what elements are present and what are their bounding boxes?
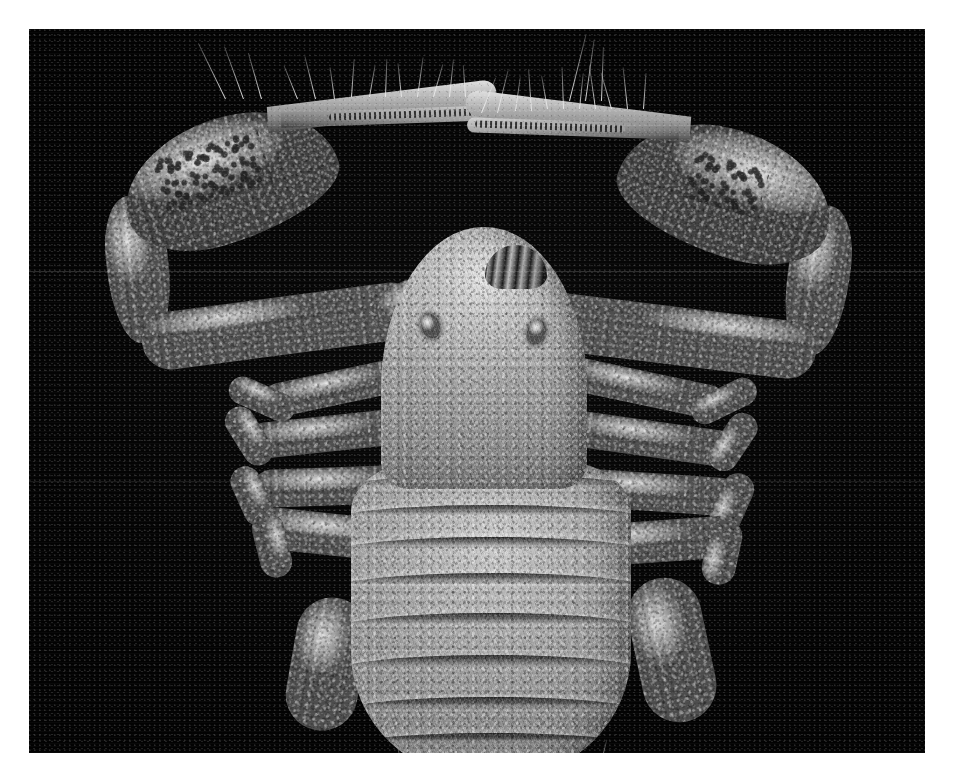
seta xyxy=(330,67,336,99)
leg-right-posterior xyxy=(621,571,724,729)
seta xyxy=(601,47,604,101)
micrograph-plate xyxy=(29,29,925,753)
tergite-5 xyxy=(351,613,631,630)
tergite-2 xyxy=(351,505,631,520)
seta xyxy=(569,35,587,101)
tergite-7 xyxy=(351,697,631,714)
opisthosoma xyxy=(351,461,631,753)
carapace xyxy=(381,227,587,489)
seta xyxy=(643,73,647,109)
seta xyxy=(198,43,226,99)
page-root xyxy=(0,0,955,776)
eye-right xyxy=(524,317,549,347)
seta xyxy=(369,65,376,97)
seta xyxy=(248,53,263,100)
eye-left xyxy=(417,311,443,342)
seta xyxy=(224,46,244,99)
tergite-4 xyxy=(351,573,631,589)
pedipalp-left-femur xyxy=(138,279,423,373)
tergite-3 xyxy=(351,537,631,553)
tergite-6 xyxy=(351,655,631,672)
seta xyxy=(304,56,316,99)
seta xyxy=(623,67,629,109)
tergite-8 xyxy=(351,733,631,749)
seta xyxy=(351,59,355,97)
seta xyxy=(284,65,299,99)
